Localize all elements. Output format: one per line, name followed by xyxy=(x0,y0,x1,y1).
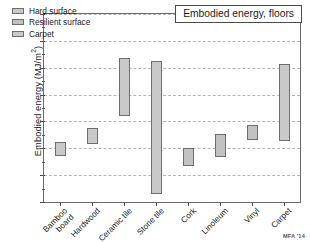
y-axis-tick xyxy=(40,175,45,176)
y-axis-unit-exponent: 2 xyxy=(30,49,37,53)
legend: Hard surfaceResilient surfaceCarpet xyxy=(12,5,90,40)
bar-vinyl[interactable] xyxy=(247,125,258,141)
page-title: Embodied energy, floors xyxy=(183,8,294,19)
gridline xyxy=(44,148,300,149)
gridline xyxy=(44,175,300,176)
legend-swatch-icon xyxy=(12,19,24,25)
legend-swatch-icon xyxy=(12,31,24,37)
x-axis-label-carpet: Carpet xyxy=(270,207,294,231)
bar-bamboo-board[interactable] xyxy=(55,142,66,155)
x-axis-tick xyxy=(124,202,125,206)
y-axis-tick xyxy=(40,148,45,149)
chart-title-box: Embodied energy, floors xyxy=(175,5,302,23)
credit-label: MFA '14 xyxy=(283,233,305,239)
legend-item-label: Carpet xyxy=(29,30,54,38)
y-axis-tick xyxy=(40,41,45,42)
x-axis-label-bamboo-board: Bamboo board xyxy=(42,207,76,241)
y-axis-title-close: ) xyxy=(33,46,43,49)
x-axis-tick xyxy=(156,202,157,206)
y-axis-minor-tick xyxy=(42,81,46,82)
x-axis-tick xyxy=(92,202,93,206)
x-axis-label-stone-tile: Stone tile xyxy=(136,207,166,237)
y-axis-tick xyxy=(40,121,45,122)
bar-cork[interactable] xyxy=(183,148,194,165)
x-axis-tick xyxy=(220,202,221,206)
y-axis-minor-tick xyxy=(42,162,46,163)
legend-swatch-icon xyxy=(12,8,24,14)
legend-item-hard-surface[interactable]: Hard surface xyxy=(12,5,90,17)
legend-item-label: Resilient surface xyxy=(29,18,90,26)
bar-stone-tile[interactable] xyxy=(151,61,162,194)
y-axis-tick xyxy=(40,68,45,69)
y-axis-tick xyxy=(40,202,45,203)
legend-item-carpet[interactable]: Carpet xyxy=(12,28,90,40)
y-axis-tick xyxy=(40,95,45,96)
x-axis-label-vinyl: Vinyl xyxy=(243,207,262,226)
x-axis-label-cork: Cork xyxy=(180,207,198,225)
y-axis-minor-tick xyxy=(42,189,46,190)
gridline xyxy=(44,121,300,122)
bar-carpet[interactable] xyxy=(279,64,290,141)
y-axis-minor-tick xyxy=(42,108,46,109)
bar-ceramic-tile[interactable] xyxy=(119,58,130,116)
x-axis-label-linoleum: Linoleum xyxy=(201,207,231,237)
bar-hardwood[interactable] xyxy=(87,128,98,144)
gridline xyxy=(44,68,300,69)
gridline xyxy=(44,41,300,42)
plot-area: 0100200300400500600700 xyxy=(43,13,301,203)
legend-item-label: Hard surface xyxy=(29,7,77,15)
embodied-energy-floors-chart: Embodied energy (MJ/m2) 0100200300400500… xyxy=(0,0,310,242)
bar-linoleum[interactable] xyxy=(215,134,226,157)
y-axis-minor-tick xyxy=(42,135,46,136)
x-axis-label-ceramic-tile: Ceramic tile xyxy=(98,207,135,242)
gridline xyxy=(44,95,300,96)
legend-item-resilient-surface[interactable]: Resilient surface xyxy=(12,17,90,29)
x-axis-tick xyxy=(252,202,253,206)
x-axis-tick xyxy=(188,202,189,206)
y-axis-minor-tick xyxy=(42,54,46,55)
x-axis-tick xyxy=(284,202,285,206)
plot-inner: 0100200300400500600700 xyxy=(44,14,300,202)
x-axis-tick xyxy=(60,202,61,206)
